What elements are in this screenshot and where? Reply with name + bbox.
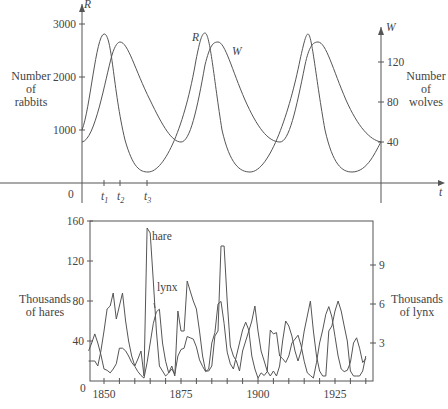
- bottom-chart: [87, 221, 376, 384]
- top-tick-labels: 3000 2000 1000 120 80 40 0 R W t t1 t2 t…: [53, 0, 443, 205]
- year-tick-1850: 1850: [93, 388, 116, 400]
- w-tick-80: 80: [387, 96, 399, 108]
- year-tick-1925: 1925: [324, 388, 347, 400]
- hare-tick-160: 160: [67, 215, 85, 227]
- w-curve-label: W: [232, 45, 243, 57]
- lynx-tick-6: 6: [379, 298, 385, 310]
- hare-tick-40: 40: [73, 335, 85, 347]
- t3-label: t3: [144, 190, 151, 205]
- lynx-series-line: [89, 301, 366, 378]
- year-tick-1900: 1900: [247, 388, 270, 400]
- bottom-origin-label: 0: [80, 382, 86, 394]
- wolves-axis-label: Number of wolves: [404, 70, 448, 109]
- t1-label: t1: [101, 190, 108, 205]
- top-origin-label: 0: [68, 188, 74, 200]
- wolves-curve: [82, 42, 381, 142]
- t-axis-symbol: t: [439, 186, 443, 198]
- hare-annotation: hare: [152, 230, 172, 242]
- year-tick-1875: 1875: [170, 388, 193, 400]
- lynx-annotation: lynx: [157, 281, 178, 294]
- w-tick-120: 120: [387, 56, 405, 68]
- r-axis-symbol: R: [83, 0, 91, 10]
- w-axis-symbol: W: [386, 21, 397, 33]
- lynx-axis-label: Thousands of lynx: [388, 293, 446, 319]
- hares-axis-label: Thousands of hares: [14, 293, 76, 319]
- lynx-tick-9: 9: [379, 259, 385, 271]
- r-tick-1000: 1000: [53, 124, 76, 136]
- top-chart: [0, 4, 445, 203]
- r-curve-label: R: [191, 31, 199, 43]
- lynx-tick-3: 3: [379, 337, 385, 349]
- hare-tick-120: 120: [67, 255, 85, 267]
- rabbits-axis-label: Number of rabbits: [0, 70, 62, 109]
- w-tick-40: 40: [387, 136, 399, 148]
- t2-label: t2: [117, 190, 124, 205]
- w-axis-arrow-icon: [378, 27, 384, 35]
- r-tick-3000: 3000: [53, 18, 76, 30]
